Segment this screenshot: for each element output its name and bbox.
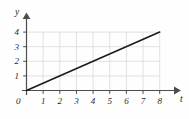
x-axis-label: t xyxy=(180,95,183,105)
y-tick-label: 1 xyxy=(15,71,20,80)
x-tick-label: 4 xyxy=(91,97,96,106)
y-tick-label: 4 xyxy=(15,28,20,37)
x-tick-label: 8 xyxy=(157,97,162,106)
y-axis-label: y xyxy=(15,8,19,18)
y-tick-label: 3 xyxy=(15,42,20,51)
x-tick-label: 5 xyxy=(108,97,113,106)
x-tick-label: 6 xyxy=(124,97,129,106)
x-tick-label: 1 xyxy=(41,97,46,106)
y-tick-label: 2 xyxy=(15,57,20,66)
graph-figure: 123456781234 y t 0 xyxy=(0,0,189,119)
y-axis-arrowhead xyxy=(23,13,31,20)
x-tick-label: 7 xyxy=(141,97,146,106)
x-tick-label: 3 xyxy=(74,97,79,106)
x-tick-label: 2 xyxy=(58,97,63,106)
origin-label: 0 xyxy=(16,97,21,106)
